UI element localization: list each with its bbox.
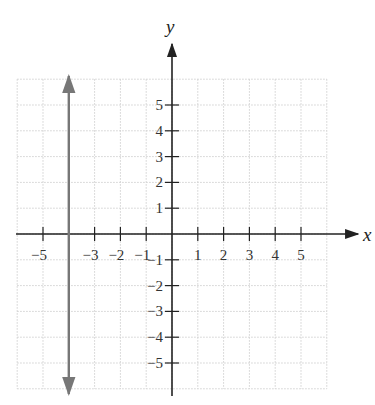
y-tick-label: 2 xyxy=(156,174,164,190)
y-tick-label: −4 xyxy=(147,329,163,345)
x-tick-label: 2 xyxy=(220,247,228,263)
y-tick-label: −5 xyxy=(147,355,163,371)
y-tick-label: −1 xyxy=(147,252,163,268)
y-tick-label: 3 xyxy=(156,149,164,165)
x-tick-label: 1 xyxy=(194,247,202,263)
x-tick-label: 4 xyxy=(271,247,279,263)
x-tick-label: −3 xyxy=(83,247,99,263)
y-tick-label: 1 xyxy=(156,200,164,216)
x-tick-label: −2 xyxy=(108,247,124,263)
y-tick-label: 4 xyxy=(156,123,164,139)
coordinate-plane: xy −5−3−2−11234554321−1−2−3−4−5 xyxy=(0,0,375,405)
y-axis-label: y xyxy=(164,16,175,37)
y-tick-label: −3 xyxy=(147,303,163,319)
x-tick-label: 3 xyxy=(246,247,254,263)
y-tick-label: −2 xyxy=(147,278,163,294)
x-tick-label: 5 xyxy=(297,247,305,263)
x-axis-label: x xyxy=(362,224,372,245)
y-tick-label: 5 xyxy=(156,97,164,113)
x-tick-label: −5 xyxy=(31,247,47,263)
